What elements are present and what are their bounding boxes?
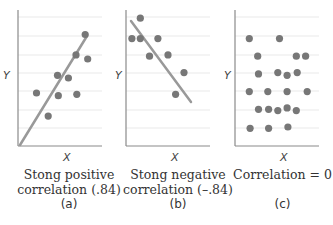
panel-b-x-label: X (171, 151, 179, 164)
data-point (255, 106, 262, 113)
panel-a-y-label: Y (3, 69, 10, 82)
data-point (146, 53, 153, 60)
data-point (33, 89, 40, 96)
data-point (284, 72, 291, 79)
data-point (84, 55, 91, 62)
data-point (274, 107, 281, 114)
data-point (264, 88, 271, 95)
data-point (284, 123, 291, 130)
data-point (180, 69, 187, 76)
data-point (254, 53, 261, 60)
data-point (284, 88, 291, 95)
panel-b-caption-line1: Stong negative (108, 167, 248, 182)
panel-b-caption-line2: correlation (–.84) (108, 182, 248, 197)
data-point (55, 92, 62, 99)
data-point (294, 69, 301, 76)
panel-c-label: (c) (230, 197, 333, 211)
data-point (73, 91, 80, 98)
data-point (154, 35, 161, 42)
data-point (137, 15, 144, 22)
data-point (246, 35, 253, 42)
panel-c-caption-line1: Correlation = 0 (230, 167, 333, 182)
data-point (293, 53, 300, 60)
data-point (65, 74, 72, 81)
data-point (54, 72, 61, 79)
panel-c-y-label: Y (224, 69, 231, 82)
data-point (265, 106, 272, 113)
panel-b-label: (b) (108, 197, 248, 211)
data-point (164, 51, 171, 58)
data-point (247, 125, 254, 132)
data-point (304, 88, 311, 95)
data-point (137, 35, 144, 42)
data-point (265, 125, 272, 132)
panel-a-x-label: X (63, 151, 71, 164)
data-point (302, 53, 309, 60)
data-point (246, 88, 253, 95)
trend-line (131, 21, 191, 102)
data-point (82, 31, 89, 38)
data-point (276, 35, 283, 42)
data-point (293, 107, 300, 114)
data-point (45, 113, 52, 120)
panel-c-x-label: X (280, 151, 288, 164)
data-point (172, 91, 179, 98)
data-point (72, 51, 79, 58)
data-point (284, 104, 291, 111)
data-point (128, 35, 135, 42)
panel-b-y-label: Y (115, 69, 122, 82)
data-point (274, 69, 281, 76)
data-point (255, 70, 262, 77)
